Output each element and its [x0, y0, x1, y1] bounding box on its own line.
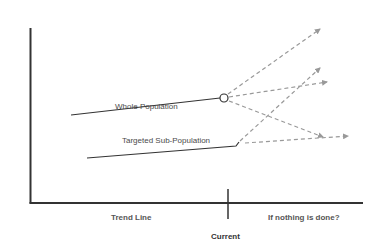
sub-population-label: Targeted Sub-Population	[122, 137, 210, 145]
projection-whole-flat	[229, 82, 327, 97]
whole-population-projections	[228, 29, 327, 137]
projection-sub-flat	[245, 136, 348, 143]
projection-whole-up	[228, 29, 320, 94]
x-axis-label-trend-line: Trend Line	[111, 214, 151, 222]
projection-sub-up	[240, 68, 320, 141]
x-axis-label-current: Current	[211, 233, 240, 241]
current-point-marker	[220, 94, 228, 102]
x-axis-label-future: If nothing is done?	[268, 214, 340, 222]
sub-population-projections	[240, 68, 348, 143]
projection-whole-down	[229, 101, 323, 137]
whole-population-label: Whole Population	[115, 103, 178, 111]
